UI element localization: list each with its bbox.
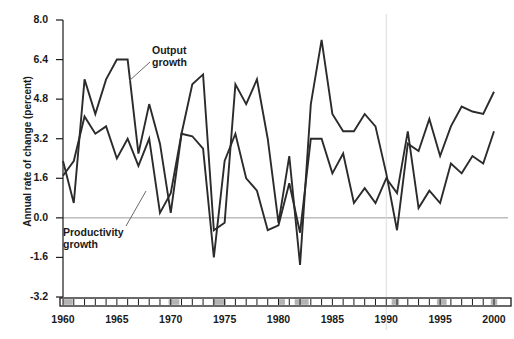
chart-plot-area <box>0 0 514 339</box>
recession-band <box>295 299 309 305</box>
recession-band <box>169 299 180 305</box>
chart-figure: Annual rate of change (percent) 8.06.44.… <box>0 0 514 339</box>
recession-band <box>392 299 400 305</box>
series-line-productivity-growth <box>63 116 494 257</box>
annotation-leader-output-growth <box>129 62 150 81</box>
recession-band <box>279 299 285 305</box>
annotation-leader-productivity-growth <box>126 191 146 226</box>
recession-band <box>63 299 73 305</box>
recession-band <box>437 299 447 305</box>
series-line-output-growth <box>63 40 494 265</box>
recession-band <box>213 299 226 305</box>
